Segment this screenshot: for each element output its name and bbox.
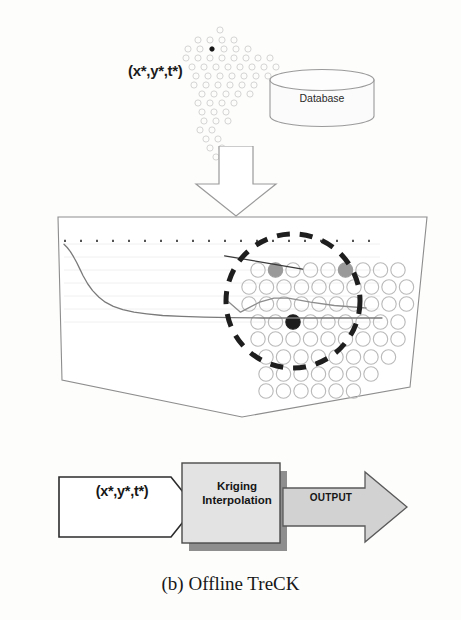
sample-point-circle: [207, 100, 213, 106]
sample-point-circle: [195, 100, 201, 106]
data-surface-panel: [50, 212, 435, 424]
figure-caption: (b) Offline TreCK: [0, 573, 461, 595]
sample-point-circle: [241, 73, 247, 79]
sample-point-circle: [201, 64, 207, 70]
sample-point-circle: [223, 91, 229, 97]
sample-point-circle: [267, 55, 273, 61]
sample-point-circle: [205, 73, 211, 79]
sample-point-circle: [221, 46, 227, 52]
sample-point-circle: [247, 91, 253, 97]
sample-point-circle: [193, 73, 199, 79]
sample-point-circle: [219, 37, 225, 43]
sample-point-circle: [239, 82, 245, 88]
sample-point-circle: [217, 27, 223, 33]
sample-point-circle: [245, 46, 251, 52]
sample-point-circle: [201, 118, 207, 124]
scattered-sample-points-cloud: [168, 26, 280, 166]
sample-point-circle: [215, 82, 221, 88]
sample-point-circle: [183, 55, 189, 61]
sample-point-circle: [213, 64, 219, 70]
down-arrow-shape: [196, 146, 276, 216]
output-arrow-shape[interactable]: [283, 472, 407, 542]
sample-point-circle: [225, 64, 231, 70]
sample-point-circle: [235, 91, 241, 97]
sample-point-circle: [219, 55, 225, 61]
sensor-circle-filled: [338, 263, 352, 277]
sample-point-circle: [197, 127, 203, 133]
figure-offline-treck: (x*,y*,t*) Database: [0, 0, 461, 620]
sample-point-circle: [249, 64, 255, 70]
sample-point-circle: [243, 55, 249, 61]
sample-point-circle: [231, 55, 237, 61]
sample-point-circle: [211, 109, 217, 115]
sample-point-circle: [195, 37, 201, 43]
sample-point-circle: [189, 64, 195, 70]
sample-point-circle: [199, 91, 205, 97]
sample-point-circle: [217, 73, 223, 79]
kriging-pipeline: [55, 455, 425, 560]
sample-point-circle: [255, 55, 261, 61]
sample-point-circle: [213, 118, 219, 124]
sample-point-circle: [203, 82, 209, 88]
query-input-arrow-shape[interactable]: [59, 477, 195, 537]
sample-point-circle: [251, 82, 257, 88]
sample-point-circle: [227, 82, 233, 88]
sample-point-circle: [219, 100, 225, 106]
sample-point-circle: [215, 136, 221, 142]
sample-point-circle: [185, 46, 191, 52]
sample-point-circle: [203, 136, 209, 142]
sample-point-circle: [253, 73, 259, 79]
sample-point-circle: [231, 37, 237, 43]
kriging-interpolation-box[interactable]: [182, 463, 280, 543]
sample-point-circle: [195, 55, 201, 61]
sample-point-circle: [191, 82, 197, 88]
flow-arrow-down-icon: [188, 146, 284, 218]
sample-point-circle: [211, 91, 217, 97]
sensor-circle-filled: [286, 315, 300, 329]
sample-point-circle: [225, 118, 231, 124]
query-point-dot: [210, 47, 214, 51]
sample-point-circle: [197, 46, 203, 52]
sample-point-circle: [233, 46, 239, 52]
sample-point-circle: [207, 37, 213, 43]
sample-point-circle: [199, 109, 205, 115]
database-label-wrap: Database: [268, 68, 376, 128]
sample-point-circle: [223, 109, 229, 115]
sample-point-circle: [229, 73, 235, 79]
sample-point-circle: [209, 127, 215, 133]
sample-point-circle: [207, 55, 213, 61]
sample-point-circle: [237, 64, 243, 70]
panel-outline-shape: [58, 217, 427, 417]
sample-point-circle: [261, 64, 267, 70]
sample-point-circle: [231, 100, 237, 106]
database-label: Database: [268, 92, 376, 104]
